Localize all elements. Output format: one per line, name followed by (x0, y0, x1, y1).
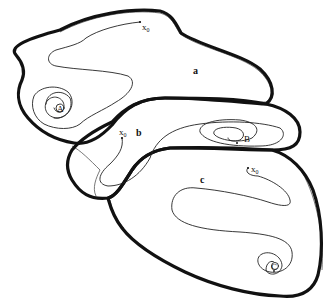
attractor-a-label: A (57, 104, 64, 114)
basin-c-boundary (108, 148, 322, 297)
basins-diagram: a b c A B C x0 x0 x0 (0, 0, 332, 305)
basin-a-label: a (193, 65, 198, 76)
start-b-label: x0 (119, 127, 127, 138)
attractor-b-label: B (244, 134, 250, 144)
start-a-label: x0 (142, 22, 150, 33)
basin-b-label: b (136, 127, 142, 138)
attractor-b-point (236, 142, 238, 144)
start-point-c (247, 167, 249, 169)
basin-c-label: c (200, 174, 205, 185)
start-c-label: x0 (251, 164, 259, 175)
attractor-c-label: C (271, 262, 277, 272)
diagram-canvas: a b c A B C x0 x0 x0 (0, 0, 332, 305)
trajectory-c (172, 167, 292, 274)
start-point-a (139, 21, 141, 23)
